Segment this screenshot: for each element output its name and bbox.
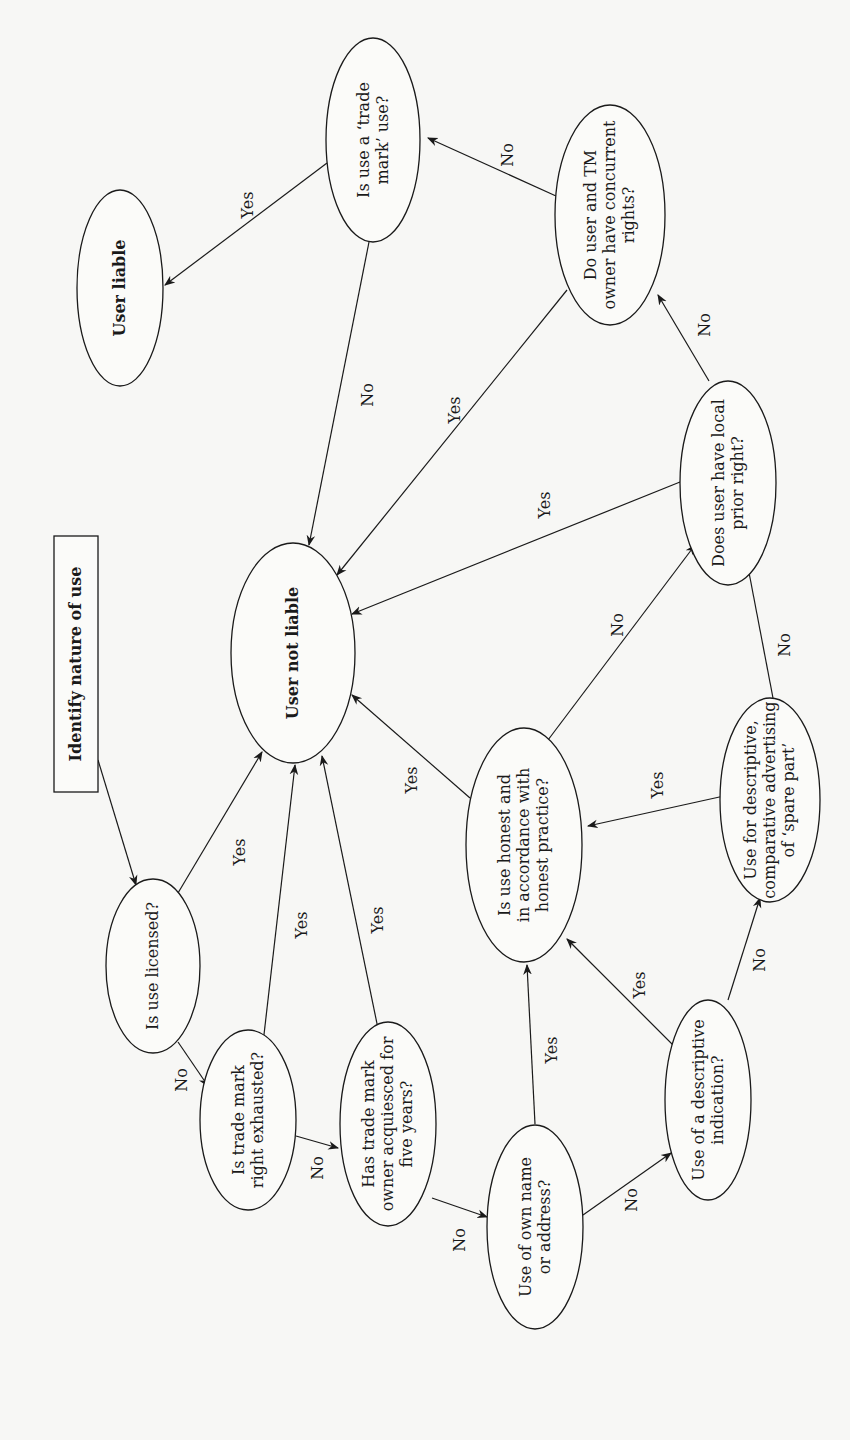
- node-label-line: User not liable: [283, 587, 302, 719]
- node-descriptive: Use of a descriptiveindication?: [665, 1000, 751, 1200]
- edge-honest-to-prior_right-arrow: [548, 545, 695, 740]
- edge-label-yes: Yes: [648, 772, 667, 800]
- edge-label-yes: Yes: [238, 192, 257, 220]
- nodes-layer: Identify nature of useIs use licensed?Us…: [54, 38, 820, 1329]
- edge-label-no: No: [358, 383, 377, 407]
- node-label-line: of ‘spare part’: [779, 743, 798, 858]
- node-tm-use: Is use a ‘trademark’ use?: [326, 38, 420, 242]
- node-label-line: Is use a ‘trade: [354, 82, 373, 198]
- node-label: Identify nature of use: [66, 567, 85, 762]
- edge-label-yes: Yes: [630, 972, 649, 1000]
- edge-start-to-licensed-arrow: [98, 760, 136, 885]
- edge-prior_right-to-not_liable-arrow: [352, 482, 680, 614]
- node-label-line: Is trade mark: [229, 1065, 248, 1175]
- node-label-line: rights?: [619, 187, 638, 244]
- trade-mark-liability-flowchart: Identify nature of useIs use licensed?Us…: [0, 0, 850, 1440]
- node-label-line: honest practice?: [533, 778, 552, 912]
- node-label-line: five years?: [397, 1081, 416, 1168]
- node-label-line: owner acquiesced for: [378, 1036, 397, 1211]
- edge-label-yes: Yes: [402, 767, 421, 795]
- edge-descriptive-to-honest-arrow: [567, 939, 685, 1057]
- edge-spare_part-to-prior_right-arrow: [747, 562, 773, 698]
- node-label-line: Is use licensed?: [143, 902, 162, 1030]
- node-acquiesced: Has trade markowner acquiesced forfive y…: [340, 1022, 436, 1226]
- node-label-line: Identify nature of use: [66, 567, 85, 762]
- edge-prior_right-to-concurrent-arrow: [658, 295, 709, 381]
- edge-label-yes: Yes: [445, 397, 464, 425]
- node-label: Is use licensed?: [143, 902, 162, 1030]
- node-label: User not liable: [283, 587, 302, 719]
- node-label-line: prior right?: [728, 436, 747, 530]
- edge-label-no: No: [622, 1188, 641, 1212]
- node-label: Is trade markright exhausted?: [229, 1052, 267, 1188]
- node-label-line: Use of own name: [516, 1157, 535, 1297]
- node-exhausted: Is trade markright exhausted?: [200, 1030, 296, 1210]
- node-start: Identify nature of use: [54, 536, 98, 792]
- node-own-name: Use of own nameor address?: [487, 1125, 583, 1329]
- edge-licensed-to-not_liable-arrow: [178, 752, 262, 893]
- edge-label-no: No: [498, 143, 517, 167]
- edge-concurrent-to-not_liable-arrow: [337, 290, 567, 575]
- node-concurrent: Do user and TMowner have concurrentright…: [555, 105, 665, 325]
- node-label-line: in accordance with: [514, 768, 533, 922]
- node-licensed: Is use licensed?: [106, 879, 200, 1053]
- edge-exhausted-to-not_liable-arrow: [262, 765, 295, 1052]
- edge-label-yes: Yes: [368, 907, 387, 935]
- edge-label-no: No: [450, 1228, 469, 1252]
- edge-label-yes: Yes: [535, 492, 554, 520]
- node-spare-part: Use for descriptive,comparative advertis…: [720, 698, 820, 902]
- edge-exhausted-to-acquiesced-arrow: [296, 1136, 338, 1148]
- edge-acquiesced-to-own_name-arrow: [432, 1198, 487, 1217]
- edge-concurrent-to-tm_use-arrow: [428, 138, 556, 196]
- node-label-line: Is use honest and: [495, 774, 514, 916]
- node-prior-right: Does user have localprior right?: [680, 381, 776, 585]
- edge-label-no: No: [608, 613, 627, 637]
- node-label-line: Do user and TM: [581, 150, 600, 281]
- node-label-line: mark’ use?: [373, 96, 392, 185]
- edge-label-no: No: [750, 948, 769, 972]
- node-honest: Is use honest andin accordance withhones…: [466, 728, 582, 962]
- edge-label-yes: Yes: [542, 1037, 561, 1065]
- node-label-line: or address?: [535, 1180, 554, 1275]
- node-label-line: right exhausted?: [248, 1052, 267, 1188]
- node-label-line: owner have concurrent: [600, 120, 619, 310]
- edge-label-no: No: [172, 1068, 191, 1092]
- edge-label-no: No: [308, 1156, 327, 1180]
- node-label: Is use honest andin accordance withhones…: [495, 768, 552, 922]
- node-not-liable: User not liable: [231, 543, 355, 763]
- node-label-line: indication?: [708, 1055, 727, 1144]
- edge-acquiesced-to-not_liable-arrow: [322, 756, 382, 1048]
- node-label-line: User liable: [110, 239, 129, 336]
- edge-label-no: No: [775, 633, 794, 657]
- node-label-line: Use of a descriptive: [689, 1019, 708, 1180]
- node-label-line: comparative advertising: [760, 701, 779, 898]
- edge-tm_use-to-liable-arrow: [165, 163, 327, 285]
- edge-label-no: No: [695, 313, 714, 337]
- edge-label-yes: Yes: [230, 839, 249, 867]
- node-liable: User liable: [77, 190, 163, 386]
- node-label-line: Has trade mark: [359, 1060, 378, 1188]
- node-label-line: Does user have local: [709, 399, 728, 567]
- node-label-line: Use for descriptive,: [741, 720, 760, 880]
- node-label: User liable: [110, 239, 129, 336]
- edge-label-yes: Yes: [292, 912, 311, 940]
- edge-spare_part-to-honest-arrow: [588, 796, 724, 826]
- node-label: Is use a ‘trademark’ use?: [354, 82, 392, 198]
- edge-own_name-to-honest-arrow: [527, 965, 535, 1124]
